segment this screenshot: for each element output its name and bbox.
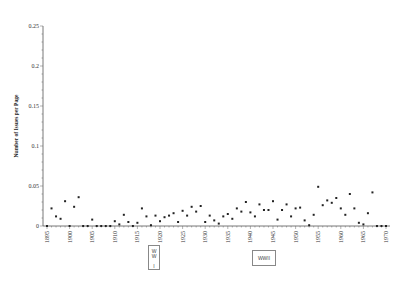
data-point xyxy=(168,215,170,217)
data-point xyxy=(177,221,179,223)
data-point xyxy=(64,200,66,202)
data-point xyxy=(231,218,233,220)
data-point xyxy=(173,212,175,214)
y-tick-label: 0.1 xyxy=(32,143,40,149)
data-point xyxy=(164,216,166,218)
data-point xyxy=(100,225,102,227)
data-point xyxy=(96,225,98,227)
data-point xyxy=(222,215,224,217)
data-point xyxy=(227,213,229,215)
x-tick-label: 1955 xyxy=(315,231,321,243)
data-point xyxy=(240,211,242,213)
data-point xyxy=(127,221,129,223)
data-point xyxy=(263,209,265,211)
data-point xyxy=(213,219,215,221)
data-point xyxy=(87,225,89,227)
x-tick-label: 1930 xyxy=(202,231,208,243)
x-tick-label: 1965 xyxy=(360,231,366,243)
data-point xyxy=(286,203,288,205)
y-tick-label: 0.25 xyxy=(29,23,40,29)
data-point xyxy=(367,212,369,214)
data-point xyxy=(159,220,161,222)
data-point xyxy=(154,215,156,217)
data-point xyxy=(73,206,75,208)
data-point xyxy=(362,223,364,225)
x-tick-label: 1915 xyxy=(134,231,140,243)
x-tick-label: 1925 xyxy=(180,231,186,243)
data-point xyxy=(277,219,279,221)
data-point xyxy=(304,219,306,221)
data-point xyxy=(322,204,324,206)
data-point xyxy=(349,193,351,195)
data-point xyxy=(118,223,120,225)
data-point xyxy=(254,215,256,217)
data-point xyxy=(290,215,292,217)
data-point xyxy=(295,207,297,209)
data-point xyxy=(145,215,147,217)
data-point xyxy=(340,207,342,209)
data-point xyxy=(299,207,301,209)
data-point xyxy=(46,225,48,227)
data-point xyxy=(313,214,315,216)
data-point xyxy=(218,223,220,225)
annotation-ww1: WW I xyxy=(148,245,160,270)
y-axis-title: Number of Issues per Page xyxy=(13,94,19,157)
data-point xyxy=(331,202,333,204)
y-axis: 00.050.10.150.20.25 xyxy=(29,23,44,229)
x-tick-label: 1950 xyxy=(293,231,299,243)
data-point xyxy=(109,225,111,227)
data-point xyxy=(91,219,93,221)
data-point xyxy=(136,222,138,224)
annotation-ww2: WWII xyxy=(252,250,276,266)
data-point xyxy=(195,211,197,213)
x-tick-label: 1910 xyxy=(112,231,118,243)
y-tick-label: 0 xyxy=(36,223,39,229)
data-point xyxy=(245,201,247,203)
data-point xyxy=(105,225,107,227)
data-point xyxy=(308,224,310,226)
x-tick-label: 1895 xyxy=(44,231,50,243)
data-point xyxy=(209,215,211,217)
x-tick-label: 1970 xyxy=(383,231,389,243)
data-point xyxy=(258,203,260,205)
data-point xyxy=(186,215,188,217)
data-point xyxy=(191,206,193,208)
data-point xyxy=(380,225,382,227)
data-point xyxy=(335,197,337,199)
y-tick-label: 0.2 xyxy=(32,63,40,69)
y-tick-label: 0.15 xyxy=(29,103,40,109)
data-point xyxy=(51,207,53,209)
data-point xyxy=(371,191,373,193)
x-axis: 1895190019051910191519201925193019351940… xyxy=(43,226,390,243)
data-point xyxy=(353,207,355,209)
data-point xyxy=(69,225,71,227)
x-tick-label: 1905 xyxy=(89,231,95,243)
y-tick-label: 0.05 xyxy=(29,183,40,189)
data-point xyxy=(267,209,269,211)
x-tick-label: 1940 xyxy=(247,231,253,243)
data-point xyxy=(182,210,184,212)
data-point xyxy=(141,207,143,209)
data-point xyxy=(358,222,360,224)
data-point xyxy=(385,225,387,227)
data-point xyxy=(132,225,134,227)
data-points xyxy=(46,186,387,227)
data-point xyxy=(114,220,116,222)
data-point xyxy=(82,225,84,227)
data-point xyxy=(204,221,206,223)
x-tick-label: 1960 xyxy=(338,231,344,243)
data-point xyxy=(60,218,62,220)
x-tick-label: 1920 xyxy=(157,231,163,243)
data-point xyxy=(200,205,202,207)
data-point xyxy=(236,207,238,209)
data-point xyxy=(249,211,251,213)
data-point xyxy=(272,200,274,202)
data-point xyxy=(326,199,328,201)
data-point xyxy=(123,214,125,216)
data-point xyxy=(55,215,57,217)
data-point xyxy=(317,186,319,188)
x-tick-label: 1945 xyxy=(270,231,276,243)
data-point xyxy=(344,214,346,216)
data-point xyxy=(150,224,152,226)
data-point xyxy=(78,196,80,198)
